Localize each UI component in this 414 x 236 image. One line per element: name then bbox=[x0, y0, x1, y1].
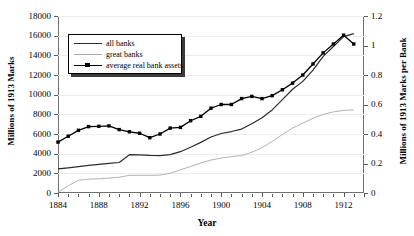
series-marker bbox=[107, 124, 110, 127]
y-axis-left-tick-label: 8000 bbox=[33, 110, 58, 119]
x-axis-minor-tick bbox=[231, 194, 232, 197]
y-axis-left-tick-label: 14000 bbox=[29, 51, 59, 60]
y-axis-left-tick-label: 2000 bbox=[33, 169, 58, 178]
x-axis-minor-tick bbox=[354, 194, 355, 197]
x-axis-minor-tick bbox=[68, 194, 69, 197]
legend-swatch-icon bbox=[74, 61, 102, 71]
series-marker bbox=[128, 130, 131, 133]
y-axis-left-tick-label: 6000 bbox=[33, 130, 58, 139]
chart-legend: all banksgreat banksaverage real bank as… bbox=[68, 34, 182, 74]
y-axis-right-tick-label: 0.6 bbox=[364, 100, 382, 109]
series-marker bbox=[148, 136, 151, 139]
x-axis-tick-label: 1904 bbox=[253, 201, 271, 210]
series-marker bbox=[332, 42, 335, 45]
x-axis-tick-label: 1896 bbox=[171, 201, 189, 210]
legend-swatch-icon bbox=[74, 50, 102, 60]
x-axis-minor-tick bbox=[242, 194, 243, 197]
y-axis-left-tick-label: 0 bbox=[47, 189, 59, 198]
series-marker bbox=[281, 88, 284, 91]
series-marker bbox=[240, 97, 243, 100]
x-axis-minor-tick bbox=[119, 194, 120, 197]
x-axis-tick-label: 1908 bbox=[294, 201, 312, 210]
series-line bbox=[58, 110, 354, 192]
y-axis-left-tick-label: 18000 bbox=[29, 12, 59, 21]
x-axis-tick-label: 1892 bbox=[131, 201, 149, 210]
x-axis-minor-tick bbox=[89, 194, 90, 197]
series-marker bbox=[158, 132, 161, 135]
series-marker bbox=[250, 95, 253, 98]
x-axis-major-tick bbox=[344, 193, 345, 197]
x-axis-minor-tick bbox=[282, 194, 283, 197]
x-axis-major-tick bbox=[262, 193, 263, 197]
legend-swatch-icon bbox=[74, 39, 102, 49]
x-axis-tick-label: 1900 bbox=[212, 201, 230, 210]
legend-item-label: all banks bbox=[106, 40, 135, 48]
x-axis-major-tick bbox=[140, 193, 141, 197]
x-axis-minor-tick bbox=[109, 194, 110, 197]
series-marker bbox=[189, 119, 192, 122]
series-marker bbox=[352, 42, 355, 45]
x-axis-minor-tick bbox=[211, 194, 212, 197]
x-axis-tick-label: 1884 bbox=[49, 201, 67, 210]
x-axis-minor-tick bbox=[323, 194, 324, 197]
series-marker bbox=[138, 132, 141, 135]
chart-container: Millions of 1913 Marks Millions of 1913 … bbox=[0, 0, 414, 236]
y-axis-right-title: Millions of 1913 Marks per Bank bbox=[398, 14, 408, 189]
series-marker bbox=[169, 126, 172, 129]
series-marker bbox=[209, 106, 212, 109]
y-axis-right-tick-label: 0.4 bbox=[364, 130, 382, 139]
series-marker bbox=[301, 73, 304, 76]
y-axis-left-title: Millions of 1913 Marks bbox=[6, 36, 16, 166]
series-marker bbox=[67, 135, 70, 138]
series-marker bbox=[118, 128, 121, 131]
y-axis-left-tick-label: 16000 bbox=[29, 31, 59, 40]
x-axis-minor-tick bbox=[333, 194, 334, 197]
series-marker bbox=[230, 103, 233, 106]
legend-item[interactable]: average real bank assets bbox=[69, 60, 181, 71]
x-axis-minor-tick bbox=[252, 194, 253, 197]
x-axis-minor-tick bbox=[272, 194, 273, 197]
series-marker bbox=[342, 33, 345, 36]
x-axis-minor-tick bbox=[78, 194, 79, 197]
x-axis-minor-tick bbox=[170, 194, 171, 197]
y-axis-right-tick-label: 0.8 bbox=[364, 71, 382, 80]
x-axis-minor-tick bbox=[313, 194, 314, 197]
x-axis-major-tick bbox=[303, 193, 304, 197]
series-marker bbox=[77, 129, 80, 132]
x-axis-major-tick bbox=[58, 193, 59, 197]
x-axis-minor-tick bbox=[201, 194, 202, 197]
legend-item[interactable]: great banks bbox=[69, 49, 181, 60]
y-axis-left-tick-label: 4000 bbox=[33, 149, 58, 158]
y-axis-left-tick-label: 10000 bbox=[29, 90, 59, 99]
series-marker bbox=[179, 126, 182, 129]
x-axis-minor-tick bbox=[129, 194, 130, 197]
x-axis-minor-tick bbox=[293, 194, 294, 197]
x-axis-tick-label: 1888 bbox=[90, 201, 108, 210]
series-marker bbox=[97, 125, 100, 128]
x-axis-title: Year bbox=[0, 218, 414, 228]
x-axis-minor-tick bbox=[191, 194, 192, 197]
legend-item-label: great banks bbox=[106, 51, 143, 59]
series-marker bbox=[220, 103, 223, 106]
legend-item-label: average real bank assets bbox=[106, 62, 183, 70]
series-marker bbox=[260, 97, 263, 100]
x-axis-major-tick bbox=[99, 193, 100, 197]
series-marker bbox=[322, 51, 325, 54]
series-marker bbox=[56, 140, 59, 143]
y-axis-left-tick-label: 12000 bbox=[29, 71, 59, 80]
series-marker bbox=[291, 81, 294, 84]
series-marker bbox=[271, 94, 274, 97]
x-axis-major-tick bbox=[221, 193, 222, 197]
y-axis-right-tick-label: 1.2 bbox=[364, 12, 382, 21]
y-axis-right-tick-label: 0 bbox=[364, 189, 376, 198]
series-marker bbox=[87, 125, 90, 128]
x-axis-minor-tick bbox=[160, 194, 161, 197]
y-axis-right-tick-label: 1 bbox=[364, 41, 376, 50]
x-axis-minor-tick bbox=[364, 194, 365, 197]
series-marker bbox=[311, 62, 314, 65]
x-axis-major-tick bbox=[180, 193, 181, 197]
legend-item[interactable]: all banks bbox=[69, 38, 181, 49]
x-axis-minor-tick bbox=[150, 194, 151, 197]
x-axis-tick-label: 1912 bbox=[335, 201, 353, 210]
y-axis-right-tick-label: 0.2 bbox=[364, 159, 382, 168]
